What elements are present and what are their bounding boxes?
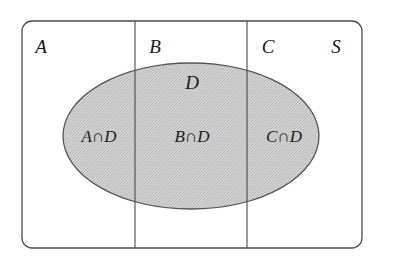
venn-diagram-figure: A B C S D A∩D B∩D C∩D [0, 0, 394, 272]
label-set-b: B [149, 36, 161, 57]
label-set-d: D [184, 72, 199, 93]
label-set-c: C [262, 36, 275, 57]
label-region-b-cap-d: B∩D [175, 127, 211, 146]
label-set-a: A [33, 36, 47, 57]
label-region-a-cap-d: A∩D [81, 127, 118, 146]
label-region-c-cap-d: C∩D [266, 127, 303, 146]
venn-diagram-canvas: A B C S D A∩D B∩D C∩D [0, 0, 394, 272]
label-universal-set-s: S [331, 36, 341, 57]
